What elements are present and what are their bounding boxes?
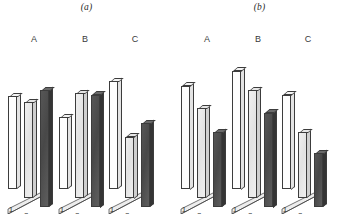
- bar-front-face: [197, 108, 206, 198]
- tick-label-2: 2: [72, 211, 82, 214]
- panel-a: (a) A123B123C123: [0, 0, 173, 214]
- bar-front-face: [109, 81, 118, 189]
- bar-side-face: [17, 93, 21, 189]
- bar-C-2[interactable]: [125, 137, 134, 199]
- bar-B-1[interactable]: [232, 71, 241, 190]
- bar-front-face: [232, 71, 241, 190]
- bar-side-face: [257, 87, 261, 198]
- tick-label-2: 2: [21, 211, 31, 214]
- bar-side-face: [68, 114, 72, 189]
- bar-front-face: [8, 96, 17, 189]
- bar-B-2[interactable]: [75, 93, 84, 198]
- plot-area: 123: [6, 54, 61, 214]
- group-label-A: A: [187, 34, 227, 44]
- bar-side-face: [33, 99, 37, 198]
- bar-front-face: [24, 102, 33, 198]
- tick-label-1: 1: [107, 205, 117, 214]
- bar-side-face: [273, 109, 277, 207]
- plot-area: 123: [230, 54, 285, 214]
- bar-front-face: [213, 132, 222, 207]
- bar-side-face: [190, 82, 194, 189]
- bar-front-face: [40, 90, 49, 207]
- group-label-C: C: [288, 34, 328, 44]
- bar-B-2[interactable]: [248, 90, 257, 198]
- tick-label-2: 2: [194, 211, 204, 214]
- tick-label-1: 1: [230, 205, 240, 214]
- bar-B-3[interactable]: [264, 113, 273, 208]
- bar-B-3[interactable]: [91, 95, 100, 208]
- bar-side-face: [84, 90, 88, 198]
- tick-label-2: 2: [245, 211, 255, 214]
- bar-C-1[interactable]: [109, 81, 118, 189]
- plot-area: 123: [107, 54, 162, 214]
- bar-front-face: [282, 95, 291, 190]
- bar-front-face: [298, 132, 307, 198]
- plot-area: 123: [179, 54, 234, 214]
- bar-group-a-C: C123: [107, 34, 162, 214]
- bar-front-face: [264, 113, 273, 208]
- bar-C-2[interactable]: [298, 132, 307, 198]
- panel-b-label: (b): [173, 2, 346, 12]
- bar-side-face: [307, 129, 311, 198]
- group-label-B: B: [65, 34, 105, 44]
- bar-group-b-B: B123: [230, 34, 285, 214]
- bar-side-face: [134, 133, 138, 198]
- bar-front-face: [59, 117, 68, 189]
- bar-A-2[interactable]: [24, 102, 33, 198]
- bar-front-face: [181, 86, 190, 190]
- bar-side-face: [323, 150, 327, 207]
- tick-label-2: 2: [295, 211, 305, 214]
- bar-side-face: [118, 78, 122, 189]
- bar-front-face: [75, 93, 84, 198]
- bar-front-face: [248, 90, 257, 198]
- bar-group-a-A: A123: [6, 34, 61, 214]
- bar-side-face: [222, 129, 226, 207]
- bar-A-3[interactable]: [40, 90, 49, 207]
- tick-label-1: 1: [57, 205, 67, 214]
- group-label-B: B: [238, 34, 278, 44]
- bar-group-b-C: C123: [280, 34, 335, 214]
- panel-b: (b) A123B123C123: [173, 0, 346, 214]
- bar-group-a-B: B123: [57, 34, 112, 214]
- panel-a-label: (a): [0, 2, 173, 12]
- bar-C-3[interactable]: [314, 153, 323, 207]
- bar-front-face: [91, 95, 100, 208]
- tick-label-1: 1: [179, 205, 189, 214]
- bar-side-face: [150, 120, 154, 207]
- bar-A-1[interactable]: [8, 96, 17, 189]
- bar-front-face: [141, 123, 150, 207]
- bar-front-face: [125, 137, 134, 199]
- bar-C-3[interactable]: [141, 123, 150, 207]
- tick-label-1: 1: [280, 205, 290, 214]
- figure-canvas: (a) A123B123C123 (b) A123B123C123: [0, 0, 346, 214]
- bar-A-3[interactable]: [213, 132, 222, 207]
- bar-side-face: [241, 67, 245, 189]
- bar-A-1[interactable]: [181, 86, 190, 190]
- bar-group-b-A: A123: [179, 34, 234, 214]
- bar-side-face: [206, 105, 210, 198]
- plot-area: 123: [57, 54, 112, 214]
- bar-A-2[interactable]: [197, 108, 206, 198]
- plot-area: 123: [280, 54, 335, 214]
- tick-label-2: 2: [122, 211, 132, 214]
- tick-label-1: 1: [6, 205, 16, 214]
- bar-front-face: [314, 153, 323, 207]
- group-label-A: A: [14, 34, 54, 44]
- bar-side-face: [49, 87, 53, 207]
- bar-B-1[interactable]: [59, 117, 68, 189]
- group-label-C: C: [115, 34, 155, 44]
- bar-side-face: [291, 91, 295, 189]
- bar-side-face: [100, 91, 104, 207]
- bar-C-1[interactable]: [282, 95, 291, 190]
